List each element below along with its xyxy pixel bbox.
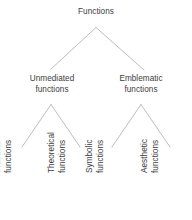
node-unmediated-functions: Unmediated functions <box>16 74 88 95</box>
node-theoretical-functions: Theoretical functions <box>47 109 68 173</box>
node-practical-functions: Practical functions <box>0 109 14 173</box>
connector-emblematic-to-symbolic <box>112 105 141 148</box>
connector-root-to-unmediated <box>51 28 96 70</box>
node-emblematic-functions: Emblematic functions <box>105 74 177 95</box>
connector-root-to-emblematic <box>96 28 144 71</box>
node-aesthetic-functions: Aesthetic functions <box>140 109 161 173</box>
node-functions: Functions <box>0 7 192 18</box>
hierarchy-diagram: Functions Unmediated functions Emblemati… <box>0 0 192 220</box>
node-symbolic-functions: Symbolic functions <box>85 109 106 173</box>
